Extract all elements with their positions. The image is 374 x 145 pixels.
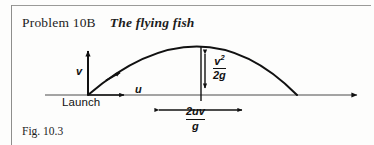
figure-caption: Fig. 10.3 <box>22 125 63 138</box>
u-velocity-label: u <box>135 84 142 95</box>
launch-point-label: Launch <box>62 97 100 109</box>
trajectory-curve <box>88 47 297 96</box>
max-height-expression: v2 2g <box>213 54 226 82</box>
max-height-numerator: v2 <box>213 54 226 67</box>
v-velocity-label: v <box>76 66 82 77</box>
range-expression: 2uv g <box>186 106 205 132</box>
trajectory-direction-arrow <box>106 73 120 81</box>
max-height-exponent: 2 <box>220 53 224 62</box>
range-numerator: 2uv <box>186 106 205 118</box>
range-denominator: g <box>186 121 205 133</box>
figure-page: Problem 10BThe flying fish <box>0 0 374 145</box>
max-height-denominator: 2g <box>213 70 226 82</box>
